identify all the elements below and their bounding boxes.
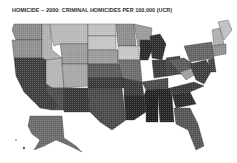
us-choropleth-map	[0, 0, 237, 163]
region-alaska	[28, 116, 82, 152]
region-south	[122, 78, 204, 150]
region-new-england	[212, 20, 232, 56]
region-east	[168, 42, 216, 84]
region-west	[14, 58, 90, 112]
region-hawaii	[15, 139, 25, 149]
region-midwest	[116, 24, 180, 82]
